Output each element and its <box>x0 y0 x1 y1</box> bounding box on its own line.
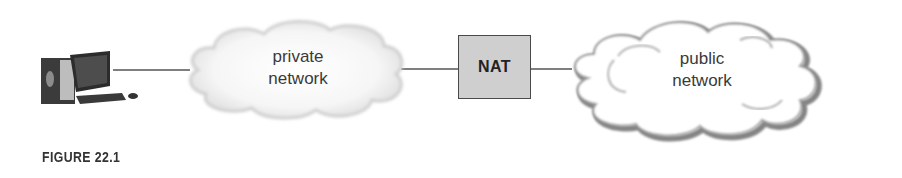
nat-box: NAT <box>458 35 531 99</box>
nat-label: NAT <box>478 58 511 76</box>
private-network-label-line1: private <box>248 46 348 68</box>
public-network-label-line1: public <box>652 48 752 70</box>
public-network-label: public network <box>652 48 752 92</box>
desktop-computer-icon <box>41 51 138 104</box>
private-network-label: private network <box>248 46 348 90</box>
private-network-label-line2: network <box>248 68 348 90</box>
figure-caption: FIGURE 22.1 <box>42 148 120 165</box>
public-network-label-line2: network <box>652 70 752 92</box>
diagram-canvas <box>0 0 902 178</box>
